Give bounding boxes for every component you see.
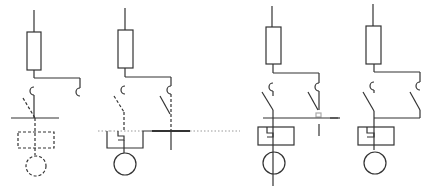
thermal-contact-icon bbox=[315, 83, 319, 91]
relay-coil-icon bbox=[107, 131, 152, 148]
fuse-icon bbox=[366, 26, 381, 64]
motor-icon bbox=[263, 152, 285, 174]
switch-icon bbox=[262, 92, 273, 110]
thermal-contact-icon bbox=[370, 82, 374, 90]
thermal-contact-icon bbox=[416, 82, 420, 90]
thermal-contact-icon bbox=[167, 86, 171, 94]
switch-icon bbox=[308, 92, 318, 110]
motor-icon bbox=[114, 153, 136, 175]
relay-coil-icon bbox=[258, 127, 294, 145]
thermal-contact-icon bbox=[269, 83, 273, 91]
schematic-canvas bbox=[0, 0, 429, 186]
panel-1 bbox=[11, 10, 80, 176]
relay-coil-icon bbox=[358, 127, 394, 145]
fuse-icon bbox=[118, 30, 133, 68]
panel-2 bbox=[98, 8, 240, 175]
fuse-icon bbox=[27, 32, 41, 70]
motor-icon bbox=[26, 156, 46, 176]
motor-icon bbox=[364, 152, 386, 174]
thermal-contact-icon bbox=[76, 88, 80, 96]
relay-coil-icon bbox=[18, 132, 54, 148]
panel-3 bbox=[258, 6, 338, 186]
thermal-contact-icon bbox=[30, 87, 34, 95]
fuse-icon bbox=[266, 27, 281, 64]
switch-icon bbox=[114, 96, 124, 112]
switch-icon bbox=[410, 92, 420, 110]
switch-icon bbox=[23, 98, 35, 118]
thermal-contact-icon bbox=[121, 86, 125, 94]
switch-icon bbox=[160, 96, 170, 114]
switch-icon bbox=[363, 92, 374, 111]
panel-4 bbox=[330, 4, 420, 174]
